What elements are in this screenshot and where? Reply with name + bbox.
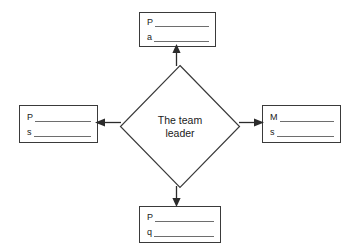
diamond-shape [119,64,241,189]
arrow-right-icon [239,118,264,127]
answer-line[interactable]: a [147,32,209,42]
answer-prefix: P [27,112,34,122]
connector-top [172,44,181,66]
answer-line[interactable]: P [147,17,209,27]
answer-prefix: q [147,227,153,237]
answer-line[interactable]: P [27,111,91,122]
answer-blank-rule[interactable] [35,112,91,122]
answer-blank-rule[interactable] [155,212,214,222]
connector-bottom [172,186,181,207]
answer-box-bottom[interactable]: P q [139,206,221,243]
answer-blank-rule[interactable] [154,32,209,42]
answer-prefix: P [147,17,154,27]
connector-right [239,118,264,127]
connector-left [95,118,121,127]
diagram-canvas: P a P s M s P [0,0,359,251]
answer-blank-rule[interactable] [155,17,209,27]
answer-line[interactable]: q [147,227,214,237]
arrow-left-icon [95,118,121,127]
answer-prefix: M [270,112,279,122]
answer-line[interactable]: M [270,111,334,122]
answer-box-top[interactable]: P a [139,12,216,47]
answer-line[interactable]: s [270,127,334,138]
answer-prefix: s [27,127,33,137]
answer-blank-rule[interactable] [154,227,214,237]
answer-blank-rule[interactable] [34,127,92,137]
answer-blank-rule[interactable] [280,112,335,122]
arrow-down-icon [172,186,181,207]
answer-prefix: P [147,212,154,222]
arrow-up-icon [172,44,181,66]
answer-line[interactable]: P [147,212,214,222]
answer-box-right[interactable]: M s [262,105,341,143]
answer-prefix: a [147,32,153,42]
answer-blank-rule[interactable] [277,127,335,137]
answer-prefix: s [270,127,276,137]
center-diamond: The team leader [119,64,241,189]
answer-line[interactable]: s [27,127,91,138]
answer-box-left[interactable]: P s [19,105,98,143]
